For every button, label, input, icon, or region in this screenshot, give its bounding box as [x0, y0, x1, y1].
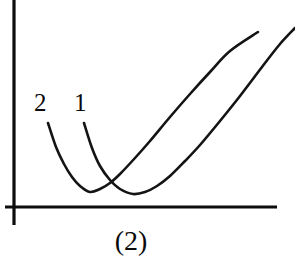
curve-label-2: 2 [34, 90, 47, 115]
figure-plot-area [0, 0, 295, 258]
figure-caption: (2) [0, 226, 262, 255]
figure-container: 2 1 (2) [0, 0, 295, 258]
curve-1-path [84, 28, 295, 194]
curve-label-1: 1 [74, 90, 87, 115]
